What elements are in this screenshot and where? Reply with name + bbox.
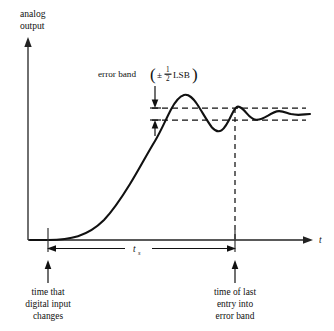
error-band-measure-arrows [150,86,161,136]
left-caption-line1: time that [31,287,64,297]
analog-output-response-curve [30,95,310,240]
settling-time-symbol-label: t [133,244,136,254]
x-axis-arrowhead [303,236,313,243]
caption-callout-arrows [45,260,239,283]
right-caption-line1: time of last [214,287,257,297]
right-caption-line3: error band [216,311,255,321]
left-caption-line3: changes [33,311,64,321]
error-band-annotation: error band ( ± 1 2 LSB ) [98,65,198,84]
left-caption-line2: digital input [25,299,71,309]
plus-minus-symbol: ± [157,70,162,80]
settling-time-figure: analog output t error band ( ± [0,0,334,331]
error-band-paren-close: ) [192,65,198,84]
settling-time-measure: t s [47,244,236,256]
fraction-denominator: 2 [166,75,170,83]
fraction-numerator: 1 [166,66,170,74]
right-caption-arrowhead [232,260,239,269]
right-caption-line2: entry into [217,299,254,309]
diagram-canvas: analog output t error band ( ± [0,0,334,331]
error-band-paren-open: ( [150,65,156,84]
y-axis-label-line2: output [20,20,45,31]
y-axis-label-line1: analog [20,8,46,19]
error-band-label: error band [98,69,136,79]
lsb-unit-label: LSB [173,70,190,80]
left-caption-group: time that digital input changes [25,287,71,321]
left-caption-arrowhead [45,260,52,269]
right-caption-group: time of last entry into error band [214,287,257,321]
y-axis-group [24,37,31,240]
y-axis-arrowhead [24,37,31,47]
band-lower-arrowhead [152,120,159,129]
x-axis-label: t [319,235,322,245]
settling-time-subscript-label: s [138,249,141,256]
band-upper-arrowhead [152,100,159,109]
